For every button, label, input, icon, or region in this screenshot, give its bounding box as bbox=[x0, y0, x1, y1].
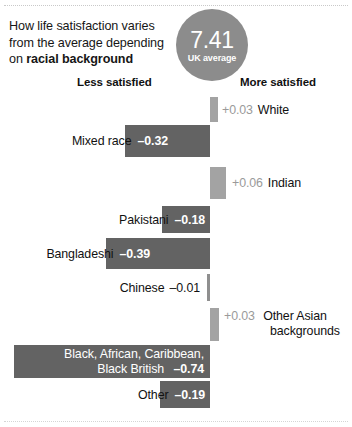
bar-label-pakistani: Pakistani –0.18 bbox=[0, 206, 205, 233]
bar-row-pakistani: Pakistani –0.18 bbox=[0, 206, 352, 233]
bar-label-black-african-caribbean: Black, African, Caribbean, Black British… bbox=[14, 345, 204, 378]
bar-label-indian: +0.06 Indian bbox=[232, 167, 301, 199]
bar-category-indian: Indian bbox=[268, 176, 301, 190]
bar-label-other: Other –0.19 bbox=[0, 381, 205, 408]
bar-label-other-asian: +0.03 Other Asian backgrounds bbox=[224, 308, 340, 341]
bar-label-mixed-race: Mixed race –0.32 bbox=[0, 125, 168, 157]
bar-category-bangladeshi: Bangladeshi bbox=[46, 247, 113, 261]
bar-category-mixed-race: Mixed race bbox=[72, 134, 132, 148]
bar-value-chinese: –0.01 bbox=[169, 281, 200, 295]
plot-area: +0.03 White Mixed race –0.32 +0.06 India… bbox=[0, 0, 352, 427]
bar-indian bbox=[210, 167, 226, 199]
bar-category-chinese: Chinese bbox=[120, 281, 165, 295]
bar-row-other-asian: +0.03 Other Asian backgrounds bbox=[0, 308, 352, 341]
bar-row-other: Other –0.19 bbox=[0, 381, 352, 408]
bar-label-chinese: Chinese –0.01 bbox=[0, 274, 200, 301]
bar-value-white: +0.03 bbox=[222, 103, 253, 117]
bar-label-bangladeshi: Bangladeshi –0.39 bbox=[0, 238, 150, 269]
bar-other-asian bbox=[210, 308, 219, 341]
bar-value-other-asian: +0.03 bbox=[224, 309, 255, 323]
bar-chinese bbox=[207, 274, 210, 301]
bar-white bbox=[210, 97, 218, 122]
bar-category-black-african-caribbean: Black, African, Caribbean, bbox=[64, 347, 204, 361]
bar-value-pakistani: –0.18 bbox=[174, 213, 205, 227]
bar-category-other-asian-line2: backgrounds bbox=[270, 324, 340, 339]
bar-row-indian: +0.06 Indian bbox=[0, 167, 352, 199]
bar-value-black-african-caribbean: –0.74 bbox=[173, 362, 204, 376]
bar-row-black-african-caribbean: Black, African, Caribbean, Black British… bbox=[0, 345, 352, 378]
bar-row-chinese: Chinese –0.01 bbox=[0, 274, 352, 301]
bar-category-white: White bbox=[258, 103, 289, 117]
bottom-divider bbox=[4, 421, 348, 423]
bar-category-black-african-caribbean-line2: Black British bbox=[97, 362, 164, 376]
bar-label-white: +0.03 White bbox=[222, 97, 289, 122]
bar-row-bangladeshi: Bangladeshi –0.39 bbox=[0, 238, 352, 269]
bar-value-mixed-race: –0.32 bbox=[137, 134, 168, 148]
bar-value-bangladeshi: –0.39 bbox=[119, 247, 150, 261]
bar-value-other: –0.19 bbox=[174, 388, 205, 402]
bar-row-mixed-race: Mixed race –0.32 bbox=[0, 125, 352, 157]
bar-category-other: Other bbox=[138, 388, 169, 402]
life-satisfaction-bar-chart: How life satisfaction varies from the av… bbox=[0, 0, 352, 427]
bar-category-pakistani: Pakistani bbox=[119, 213, 168, 227]
bar-category-other-asian: Other Asian bbox=[263, 309, 327, 323]
bar-value-indian: +0.06 bbox=[232, 176, 263, 190]
bar-row-white: +0.03 White bbox=[0, 97, 352, 122]
